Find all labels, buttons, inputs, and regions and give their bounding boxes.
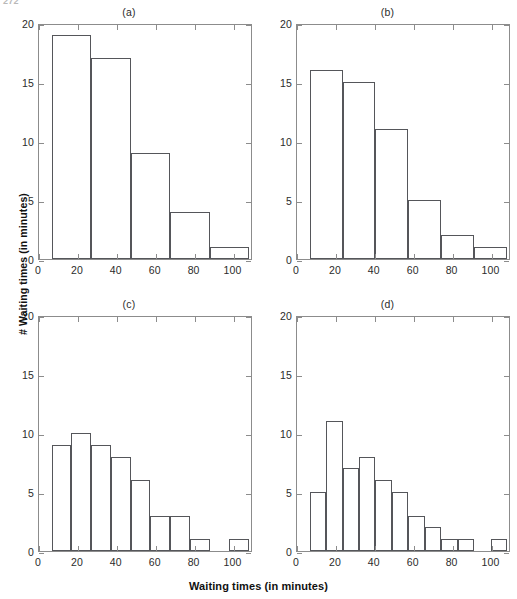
- histogram-bar: [310, 492, 326, 551]
- x-tick-mark-top: [453, 317, 454, 322]
- x-tick-label: 40: [99, 264, 133, 276]
- y-tick-label: 5: [8, 487, 34, 499]
- x-tick-mark: [297, 254, 298, 259]
- x-tick-mark: [375, 546, 376, 551]
- x-tick-label: 40: [99, 556, 133, 568]
- y-tick-mark-right: [246, 317, 251, 318]
- histogram-bar: [441, 539, 457, 551]
- y-tick-label: 20: [266, 310, 292, 322]
- histogram-bar: [131, 153, 170, 259]
- histogram-bar: [170, 516, 190, 551]
- y-tick-mark-right: [504, 261, 509, 262]
- histogram-bar: [111, 457, 131, 551]
- y-tick-mark-right: [504, 553, 509, 554]
- x-tick-label: 60: [396, 556, 430, 568]
- x-tick-label: 100: [474, 264, 508, 276]
- x-tick-mark-top: [492, 25, 493, 30]
- y-tick-label: 5: [266, 195, 292, 207]
- y-tick-mark: [297, 376, 302, 377]
- y-tick-mark: [297, 202, 302, 203]
- histogram-bar: [375, 129, 408, 259]
- y-tick-label: 0: [8, 546, 34, 558]
- plot-area-d: [296, 316, 510, 552]
- x-tick-mark: [117, 546, 118, 551]
- y-tick-mark: [297, 84, 302, 85]
- x-tick-mark-top: [117, 317, 118, 322]
- x-axis-title: Waiting times (in minutes): [0, 580, 517, 592]
- y-tick-mark-right: [246, 553, 251, 554]
- y-tick-label: 15: [266, 77, 292, 89]
- x-tick-mark-top: [375, 25, 376, 30]
- x-tick-label: 100: [216, 264, 250, 276]
- histogram-bar: [474, 247, 507, 259]
- histogram-bar: [408, 516, 424, 551]
- y-axis-title: # Waiting times (in minutes): [17, 179, 29, 349]
- y-tick-mark: [39, 553, 44, 554]
- x-tick-label: 80: [435, 556, 469, 568]
- panel-title-c: (c): [0, 298, 258, 310]
- y-tick-label: 0: [266, 546, 292, 558]
- panel-title-d: (d): [258, 298, 517, 310]
- y-tick-label: 15: [8, 77, 34, 89]
- y-tick-label: 10: [8, 136, 34, 148]
- y-tick-mark: [297, 261, 302, 262]
- y-tick-mark-right: [504, 25, 509, 26]
- x-tick-mark: [78, 546, 79, 551]
- y-tick-mark: [297, 435, 302, 436]
- y-tick-label: 15: [8, 369, 34, 381]
- x-tick-mark: [39, 254, 40, 259]
- y-tick-mark-right: [246, 25, 251, 26]
- y-tick-mark-right: [504, 143, 509, 144]
- x-tick-mark-top: [375, 317, 376, 322]
- x-tick-mark-top: [492, 317, 493, 322]
- histogram-bar: [359, 457, 375, 551]
- histogram-bar: [52, 445, 72, 551]
- x-tick-label: 20: [318, 556, 352, 568]
- x-tick-mark-top: [234, 317, 235, 322]
- x-tick-label: 20: [60, 264, 94, 276]
- y-tick-label: 20: [8, 18, 34, 30]
- x-tick-label: 60: [138, 556, 172, 568]
- x-tick-mark: [117, 254, 118, 259]
- y-tick-mark-right: [504, 435, 509, 436]
- plot-area-a: [38, 24, 252, 260]
- x-tick-mark: [414, 546, 415, 551]
- y-tick-mark: [297, 317, 302, 318]
- bars-b: [297, 25, 509, 259]
- x-tick-mark: [156, 254, 157, 259]
- y-tick-mark-right: [246, 261, 251, 262]
- y-tick-mark: [39, 317, 44, 318]
- plot-area-c: [38, 316, 252, 552]
- histogram-bar: [458, 539, 474, 551]
- x-tick-label: 60: [396, 264, 430, 276]
- histogram-bar: [375, 480, 391, 551]
- y-tick-mark-right: [246, 202, 251, 203]
- y-tick-mark-right: [504, 494, 509, 495]
- x-tick-mark-top: [195, 25, 196, 30]
- x-tick-mark: [414, 254, 415, 259]
- histogram-bar: [170, 212, 209, 259]
- x-tick-mark-top: [195, 317, 196, 322]
- histogram-bar: [326, 421, 342, 551]
- histogram-bar: [71, 433, 91, 551]
- x-tick-mark-top: [453, 25, 454, 30]
- y-tick-label: 10: [266, 136, 292, 148]
- x-tick-mark: [297, 546, 298, 551]
- histogram-bar: [310, 70, 343, 259]
- x-tick-mark: [195, 546, 196, 551]
- x-tick-mark-top: [156, 317, 157, 322]
- y-tick-mark: [39, 25, 44, 26]
- x-tick-label: 100: [216, 556, 250, 568]
- y-tick-mark-right: [246, 84, 251, 85]
- x-tick-label: 40: [357, 556, 391, 568]
- x-tick-mark-top: [117, 25, 118, 30]
- y-tick-mark: [39, 143, 44, 144]
- y-tick-label: 10: [266, 428, 292, 440]
- histogram-bar: [150, 516, 170, 551]
- y-tick-label: 15: [266, 369, 292, 381]
- x-tick-mark-top: [156, 25, 157, 30]
- y-tick-mark: [39, 84, 44, 85]
- chart-panel-b: (b) 02040608010005101520: [258, 6, 517, 296]
- y-tick-label: 10: [8, 428, 34, 440]
- histogram-bar: [91, 58, 130, 259]
